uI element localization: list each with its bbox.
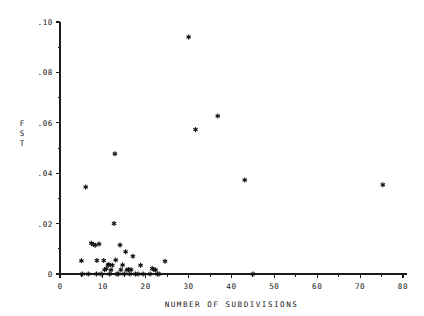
- data-point: [120, 262, 124, 267]
- x-tick-label: 80: [398, 282, 408, 291]
- marker-core: [382, 184, 384, 186]
- y-tick-label: .02: [37, 220, 53, 229]
- y-tick-label: .04: [37, 169, 53, 178]
- marker-core: [149, 273, 151, 275]
- marker-core: [96, 260, 98, 262]
- marker-core: [137, 273, 139, 275]
- data-point: [84, 185, 88, 190]
- x-axis-title: NUMBER OF SUBDIVISIONS: [165, 300, 299, 309]
- marker-core: [244, 179, 246, 181]
- data-point: [216, 114, 220, 119]
- data-point: [243, 178, 247, 183]
- marker-core: [252, 273, 254, 275]
- marker-core: [119, 244, 121, 246]
- data-point: [113, 151, 117, 156]
- marker-core: [125, 251, 127, 253]
- x-tick-label: 0: [57, 282, 62, 291]
- data-point-layer: [79, 35, 385, 277]
- marker-core: [132, 256, 134, 258]
- marker-core: [122, 264, 124, 266]
- marker-core: [188, 36, 190, 38]
- marker-core: [81, 260, 83, 262]
- marker-core: [112, 264, 114, 266]
- y-tick-label: .08: [37, 68, 53, 77]
- marker-core: [115, 259, 117, 261]
- data-point: [102, 258, 106, 263]
- marker-core: [164, 260, 166, 262]
- marker-core: [158, 273, 160, 275]
- marker-core: [130, 269, 132, 271]
- x-tick-label: 50: [269, 282, 279, 291]
- data-point: [79, 258, 83, 263]
- y-tick-label: 0: [48, 270, 53, 279]
- marker-core: [120, 269, 122, 271]
- data-point: [138, 263, 142, 268]
- marker-core: [98, 243, 100, 245]
- marker-core: [94, 245, 96, 247]
- marker-core: [113, 223, 115, 225]
- data-point: [193, 127, 197, 132]
- marker-core: [142, 273, 144, 275]
- marker-core: [124, 273, 126, 275]
- y-axis-title-char: S: [20, 129, 25, 138]
- data-point: [112, 221, 116, 226]
- x-tick-label: 60: [312, 282, 322, 291]
- marker-core: [109, 273, 111, 275]
- marker-core: [85, 186, 87, 188]
- y-axis-title-char: T: [20, 139, 25, 148]
- x-tick-label: 70: [355, 282, 365, 291]
- marker-core: [96, 273, 98, 275]
- marker-core: [140, 264, 142, 266]
- marker-core: [110, 269, 112, 271]
- x-tick-label: 30: [183, 282, 193, 291]
- data-point: [163, 259, 167, 264]
- data-point: [119, 267, 123, 272]
- data-point: [186, 35, 190, 40]
- plot-canvas: 010203040506070800.02.04.06.08.10NUMBER …: [0, 0, 424, 316]
- marker-core: [118, 273, 120, 275]
- x-tick-label: 20: [141, 282, 151, 291]
- marker-core: [155, 269, 157, 271]
- data-point: [95, 258, 99, 263]
- data-point: [131, 254, 135, 259]
- marker-core: [129, 273, 131, 275]
- y-tick-label: .10: [37, 18, 53, 27]
- marker-core: [195, 129, 197, 131]
- data-point: [118, 243, 122, 248]
- data-point: [123, 249, 127, 254]
- marker-core: [100, 273, 102, 275]
- marker-core: [103, 260, 105, 262]
- marker-core: [88, 273, 90, 275]
- data-point: [381, 182, 385, 187]
- scatter-plot-figure: 010203040506070800.02.04.06.08.10NUMBER …: [0, 0, 424, 316]
- marker-core: [114, 153, 116, 155]
- marker-core: [108, 264, 110, 266]
- y-tick-label: .06: [37, 119, 53, 128]
- marker-core: [106, 268, 108, 270]
- data-point: [114, 257, 118, 262]
- marker-core: [82, 273, 84, 275]
- x-tick-label: 40: [226, 282, 236, 291]
- x-tick-label: 10: [98, 282, 108, 291]
- data-point: [97, 242, 101, 247]
- marker-core: [217, 115, 219, 117]
- y-axis-title-char: F: [20, 119, 25, 128]
